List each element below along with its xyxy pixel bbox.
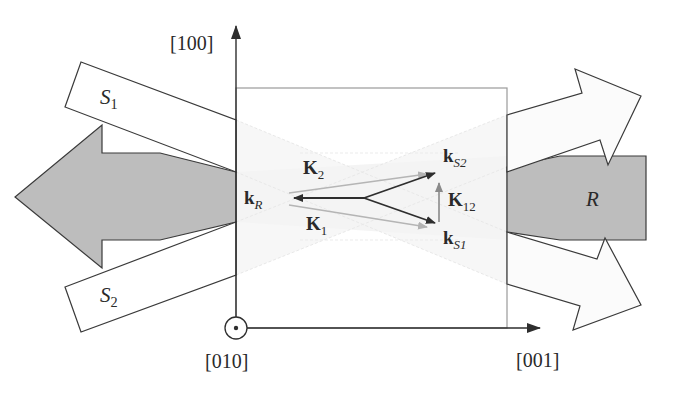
vector-kr-label: kR — [244, 188, 262, 207]
vector-ks2-letter: k — [443, 145, 454, 166]
beam-s2-sub: 2 — [111, 294, 118, 310]
beam-s1-output-arrow — [507, 232, 641, 330]
diagram-canvas — [0, 0, 684, 394]
vector-k2-letter: K — [303, 157, 318, 178]
beam-r-output — [507, 156, 646, 240]
vector-kr-sub: R — [255, 197, 263, 212]
axis-001-label: [001] — [516, 350, 559, 370]
vector-kr-letter: k — [244, 187, 255, 208]
vector-k12-label: K12 — [448, 190, 476, 209]
vector-k1-sub: 1 — [321, 223, 327, 238]
vector-ks1-sub: S1 — [454, 237, 467, 252]
vector-ks2-label: kS2 — [443, 146, 466, 165]
vector-ks1-label: kS1 — [443, 228, 466, 247]
vector-k12-letter: K — [448, 189, 463, 210]
axis-010-label: [010] — [205, 351, 248, 371]
vector-ks1-letter: k — [443, 227, 454, 248]
vector-k2-label: K2 — [303, 158, 324, 177]
beam-s1-label: S1 — [100, 87, 118, 108]
vector-k1-letter: K — [306, 213, 321, 234]
beam-s2-letter: S — [100, 283, 111, 307]
beam-r-label: R — [586, 189, 599, 210]
beam-s2-label: S2 — [100, 285, 118, 306]
vector-ks2-sub: S2 — [454, 155, 467, 170]
vector-k2-sub: 2 — [318, 167, 324, 182]
beam-s1-letter: S — [100, 85, 111, 109]
axis-100-label: [100] — [170, 33, 213, 53]
vector-k12-sub: 12 — [463, 199, 476, 214]
beam-s1-sub: 1 — [111, 96, 118, 112]
vector-k1-label: K1 — [306, 214, 327, 233]
axis-010-icon — [225, 317, 247, 339]
